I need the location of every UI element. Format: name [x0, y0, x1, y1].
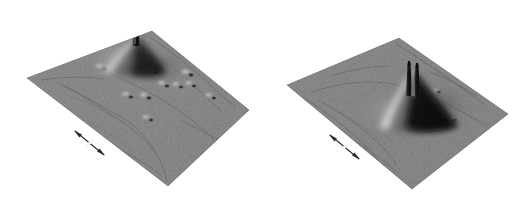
two-panel-surface-figure — [0, 0, 528, 199]
